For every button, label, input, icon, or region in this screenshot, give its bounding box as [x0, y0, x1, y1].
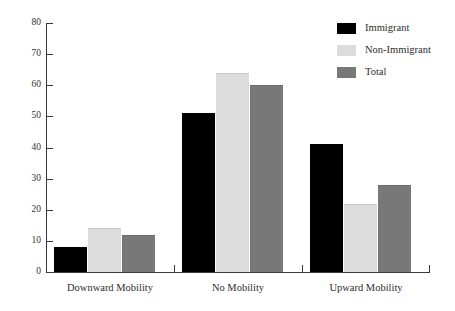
y-axis-tick-label: 0 — [3, 267, 41, 277]
x-axis-line — [46, 272, 430, 273]
bar — [182, 113, 215, 272]
y-axis-tick-label: 50 — [3, 111, 41, 121]
bar — [344, 204, 377, 272]
y-axis-tick-label: 20 — [3, 205, 41, 215]
bar — [310, 144, 343, 272]
y-axis-tick-label: 10 — [3, 236, 41, 246]
y-axis-tick — [47, 272, 53, 273]
bar — [122, 235, 155, 272]
bar — [250, 85, 283, 272]
y-axis-tick-label: 40 — [3, 143, 41, 153]
x-axis-category-label: Upward Mobility — [302, 282, 430, 293]
legend-label: Immigrant — [365, 23, 409, 34]
chart-legend: ImmigrantNon-ImmigrantTotal — [337, 19, 431, 85]
legend-item: Non-Immigrant — [337, 41, 431, 59]
x-axis-category-label: No Mobility — [174, 282, 302, 293]
y-axis-tick-label: 80 — [3, 18, 41, 28]
y-axis-tick-label: 60 — [3, 80, 41, 90]
legend-color-swatch — [337, 23, 356, 34]
legend-label: Total — [365, 67, 386, 78]
bar — [216, 73, 249, 272]
bar — [54, 247, 87, 272]
legend-color-swatch — [337, 67, 356, 78]
y-axis-tick-label: 30 — [3, 174, 41, 184]
legend-item: Immigrant — [337, 19, 431, 37]
legend-label: Non-Immigrant — [365, 45, 431, 56]
x-axis-category-label: Downward Mobility — [46, 282, 174, 293]
legend-item: Total — [337, 63, 431, 81]
bar — [88, 228, 121, 272]
y-axis-tick-label: 70 — [3, 49, 41, 59]
legend-color-swatch — [337, 45, 356, 56]
bar — [378, 185, 411, 272]
bar-chart: 01020304050607080 Downward MobilityNo Mo… — [0, 0, 455, 311]
